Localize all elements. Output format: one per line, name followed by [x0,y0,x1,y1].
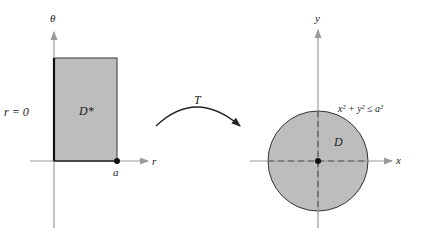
x-axis-label: x [395,154,401,166]
a-label: a [113,166,119,178]
transform-label: T [194,93,202,107]
disk-inequality: x² + y² ≤ a² [337,103,384,114]
transform-arrow: T [156,93,240,126]
theta-axis-label: θ [50,12,56,24]
point-a [114,158,120,164]
origin-point [315,158,321,164]
r-axis-label: r [152,155,157,167]
y-axis-label: y [314,12,320,24]
region-d-label: D [333,135,343,149]
polar-transform-diagram: θ r D* r = 0 a T y x D x² + y² ≤ a² [0,0,422,238]
region-d-star-label: D* [78,104,94,118]
curved-arrow-icon [156,107,240,126]
r-zero-label: r = 0 [4,105,29,119]
right-plot: y x D x² + y² ≤ a² [250,12,401,228]
left-plot: θ r D* r = 0 a [4,12,157,228]
